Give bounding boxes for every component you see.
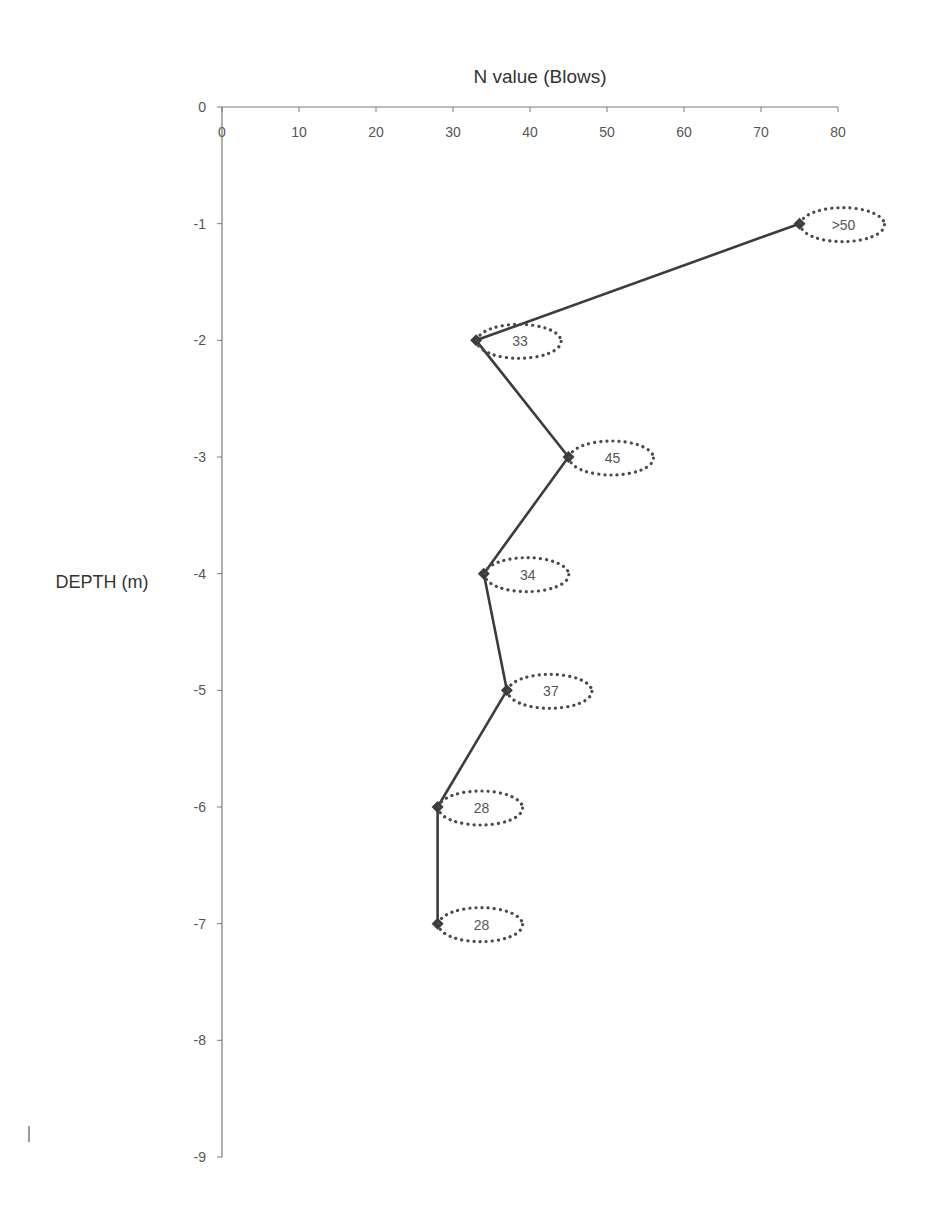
y-tick-label: -4 [194,566,207,582]
data-label: 28 [474,917,490,933]
y-axis-label: DEPTH (m) [56,572,149,592]
y-tick-label: -3 [194,449,207,465]
y-tick-label: -8 [194,1032,207,1048]
y-tick-label: -2 [194,332,207,348]
x-tick-label: 50 [599,124,615,140]
x-tick-label: 10 [291,124,307,140]
x-tick-label: 30 [445,124,461,140]
x-tick-label: 40 [522,124,538,140]
data-label: 28 [474,800,490,816]
y-tick-label: 0 [198,99,206,115]
data-label: 45 [605,450,621,466]
data-label: 33 [512,333,528,349]
chart-title: N value (Blows) [473,66,606,87]
data-label: 37 [543,683,559,699]
x-tick-label: 60 [676,124,692,140]
axes: 010203040506070800-1-2-3-4-5-6-7-8-9 [194,99,846,1165]
data-series [432,218,806,930]
scan-artifact-mark [28,1126,30,1142]
y-tick-label: -5 [194,682,207,698]
y-tick-label: -9 [194,1149,207,1165]
y-tick-label: -7 [194,916,207,932]
y-tick-label: -6 [194,799,207,815]
data-label: >50 [832,217,856,233]
data-labels: >50334534372828 [439,208,885,942]
y-tick-label: -1 [194,216,207,232]
x-tick-label: 20 [368,124,384,140]
spt-depth-chart: N value (Blows) DEPTH (m) 01020304050607… [0,0,937,1220]
data-label: 34 [520,567,536,583]
x-tick-label: 70 [753,124,769,140]
x-tick-label: 80 [830,124,846,140]
